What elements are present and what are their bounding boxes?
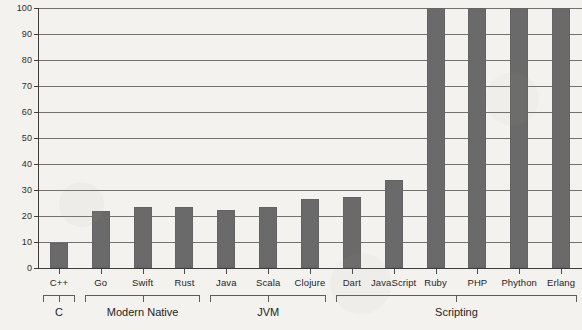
gridline-90 (38, 34, 582, 35)
gridline-100 (38, 8, 582, 9)
gridline-60 (38, 112, 582, 113)
gridline-30 (38, 190, 582, 191)
group-bracket-scripting (336, 295, 577, 306)
gridline-80 (38, 60, 582, 61)
x-tick-phython (519, 269, 520, 274)
y-tick-label-20: 20 (2, 212, 32, 221)
bar-chart: 0102030405060708090100 C++GoSwiftRustJav… (0, 0, 582, 330)
bar-rust (175, 207, 193, 268)
bar-c- (50, 243, 68, 268)
x-tick-swift (143, 269, 144, 274)
y-tick-mark-10 (34, 242, 38, 243)
x-tick-go (101, 269, 102, 274)
gridline-70 (38, 86, 582, 87)
bar-php (468, 8, 486, 268)
group-label-jvm: JVM (168, 306, 368, 319)
y-tick-mark-90 (34, 34, 38, 35)
y-tick-label-90: 90 (2, 30, 32, 39)
y-tick-mark-0 (34, 268, 38, 269)
y-tick-mark-40 (34, 164, 38, 165)
y-tick-mark-50 (34, 138, 38, 139)
group-label-scripting: Scripting (356, 306, 556, 319)
bar-scala (259, 207, 277, 268)
x-tick-scala (268, 269, 269, 274)
x-tick-c- (59, 269, 60, 274)
y-tick-mark-30 (34, 190, 38, 191)
bar-javascript (385, 180, 403, 268)
y-tick-label-50: 50 (2, 134, 32, 143)
x-tick-ruby (436, 269, 437, 274)
y-tick-mark-60 (34, 112, 38, 113)
x-tick-rust (184, 269, 185, 274)
x-tick-php (477, 269, 478, 274)
bar-go (92, 211, 110, 268)
group-bracket-modern-native (85, 295, 201, 306)
gridline-50 (38, 138, 582, 139)
bar-erlang (552, 8, 570, 268)
y-tick-label-0: 0 (2, 264, 32, 273)
y-tick-mark-20 (34, 216, 38, 217)
y-axis-line (38, 8, 39, 269)
bar-dart (343, 197, 361, 269)
gridline-40 (38, 164, 582, 165)
y-tick-label-40: 40 (2, 160, 32, 169)
x-tick-clojure (310, 269, 311, 274)
bar-java (217, 210, 235, 269)
group-bracket-c (43, 295, 75, 306)
plot-area (38, 8, 582, 268)
y-tick-label-100: 100 (2, 4, 32, 13)
x-tick-erlang (561, 269, 562, 274)
bar-clojure (301, 199, 319, 268)
x-tick-java (226, 269, 227, 274)
y-tick-label-30: 30 (2, 186, 32, 195)
y-tick-mark-70 (34, 86, 38, 87)
y-tick-label-80: 80 (2, 56, 32, 65)
bar-ruby (427, 8, 445, 268)
group-bracket-jvm (210, 295, 326, 306)
bar-phython (510, 8, 528, 268)
bar-swift (134, 207, 152, 268)
y-tick-mark-80 (34, 60, 38, 61)
x-tick-dart (352, 269, 353, 274)
x-tick-javascript (394, 269, 395, 274)
y-tick-mark-100 (34, 8, 38, 9)
y-tick-label-70: 70 (2, 82, 32, 91)
y-tick-label-10: 10 (2, 238, 32, 247)
y-tick-label-60: 60 (2, 108, 32, 117)
category-label-erlang: Erlang (521, 277, 582, 288)
